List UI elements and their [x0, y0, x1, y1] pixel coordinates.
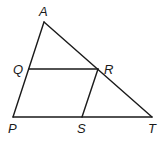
- segment-RS: [82, 69, 98, 117]
- label-Q: Q: [13, 62, 23, 77]
- label-T: T: [148, 121, 157, 136]
- label-R: R: [104, 62, 113, 77]
- geometry-diagram: A Q R P S T: [0, 0, 166, 141]
- label-A: A: [38, 4, 48, 19]
- label-S: S: [77, 121, 86, 136]
- label-P: P: [8, 121, 17, 136]
